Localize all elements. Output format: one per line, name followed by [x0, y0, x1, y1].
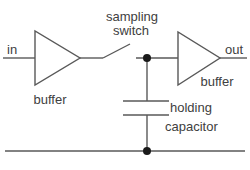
- junction-dot-bottom: [143, 147, 151, 155]
- buffer-left-triangle: [35, 31, 80, 85]
- input-label: in: [7, 42, 17, 57]
- output-label: out: [225, 42, 243, 57]
- sampling-switch-label-line1: sampling: [106, 9, 158, 24]
- circuit-diagram: in sampling switch out buffer buffer hol…: [0, 0, 250, 170]
- junction-dot-top: [143, 54, 151, 62]
- buffer-right-label: buffer: [200, 74, 234, 89]
- holding-capacitor-label-line1: holding: [170, 100, 212, 115]
- sampling-switch-label-line2: switch: [113, 23, 149, 38]
- holding-capacitor-label-line2: capacitor: [165, 119, 218, 134]
- sample-and-hold-circuit-svg: in sampling switch out buffer buffer hol…: [0, 0, 250, 170]
- sampling-switch-arm: [103, 44, 130, 58]
- buffer-left-label: buffer: [33, 92, 67, 107]
